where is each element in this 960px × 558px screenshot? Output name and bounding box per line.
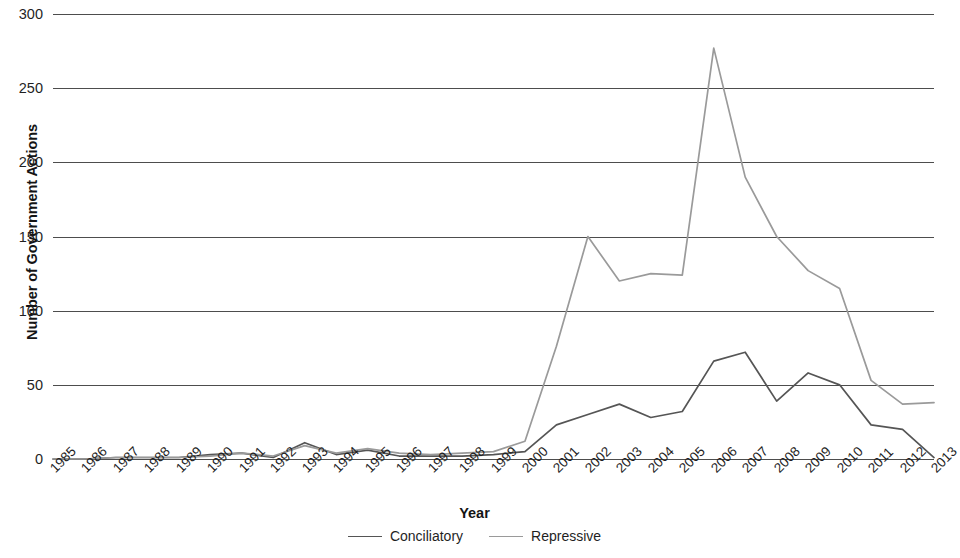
plot-area: 300250200150100500 — [53, 14, 934, 459]
y-tick-label: 50 — [27, 377, 43, 393]
y-tick-label: 250 — [19, 80, 43, 96]
y-tick-label: 150 — [19, 229, 43, 245]
chart-legend: ConciliatoryRepressive — [0, 528, 949, 544]
series-line-repressive — [53, 48, 934, 459]
legend-item[interactable]: Repressive — [489, 528, 601, 544]
y-tick-label: 200 — [19, 154, 43, 170]
y-tick-label: 300 — [19, 6, 43, 22]
x-axis-title: Year — [0, 505, 949, 521]
series-line-conciliatory — [53, 352, 934, 459]
legend-line-icon — [348, 536, 382, 537]
legend-line-icon — [489, 536, 523, 537]
legend-label: Conciliatory — [390, 528, 463, 544]
y-tick-label: 100 — [19, 303, 43, 319]
y-tick-label: 0 — [35, 451, 43, 467]
series-layer — [53, 14, 934, 459]
legend-label: Repressive — [531, 528, 601, 544]
legend-item[interactable]: Conciliatory — [348, 528, 463, 544]
